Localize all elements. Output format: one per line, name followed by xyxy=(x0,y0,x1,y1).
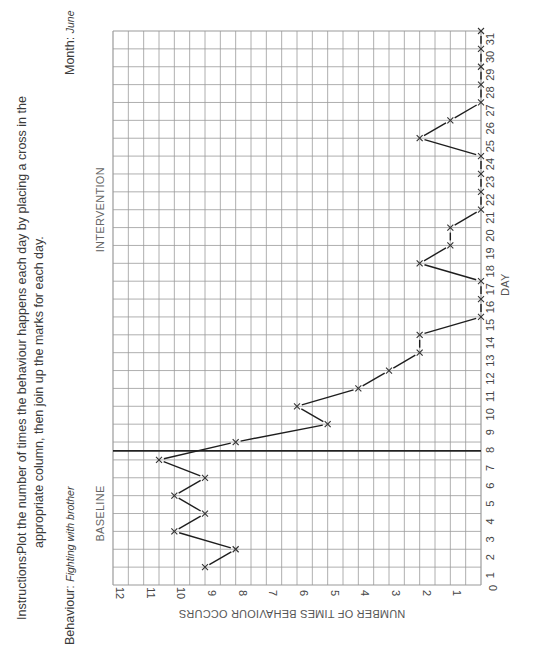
value-tick-label: 7 xyxy=(267,590,279,596)
value-axis-ticks: 123456789101112 xyxy=(114,587,463,599)
day-axis-ticks: 0123456789101112131415161718192021222324… xyxy=(484,33,499,591)
chart-labels: NUMBER OF TIMES BEHAVIOUR OCCURSDAYBASEL… xyxy=(94,167,511,620)
day-tick-label: 27 xyxy=(484,104,496,116)
day-tick-label: 10 xyxy=(484,408,496,420)
day-tick-label: 5 xyxy=(484,501,496,507)
day-tick-label: 17 xyxy=(484,283,496,295)
series-segment xyxy=(164,462,201,476)
day-tick-label: 4 xyxy=(484,518,496,524)
value-tick-label: 10 xyxy=(175,587,187,599)
data-series-line xyxy=(164,36,481,565)
day-tick-label: 26 xyxy=(484,122,496,134)
value-tick-label: 5 xyxy=(329,590,341,596)
day-tick-label: 25 xyxy=(484,140,496,152)
chart-grid xyxy=(113,31,481,585)
day-tick-label: 3 xyxy=(484,536,496,542)
baseline-label: BASELINE xyxy=(94,485,106,541)
value-tick-label: 8 xyxy=(237,590,249,596)
day-tick-label: 1 xyxy=(484,572,496,578)
value-tick-label: 9 xyxy=(206,590,218,596)
intervention-label: INTERVENTION xyxy=(94,167,106,252)
day-tick-label: 16 xyxy=(484,301,496,313)
day-tick-label: 29 xyxy=(484,69,496,81)
day-tick-label: 0 xyxy=(487,585,499,591)
x-axis-title: DAY xyxy=(499,273,511,296)
value-tick-label: 1 xyxy=(451,590,463,596)
day-tick-label: 6 xyxy=(484,483,496,489)
y-axis-title: NUMBER OF TIMES BEHAVIOUR OCCURS xyxy=(179,608,406,620)
day-tick-label: 12 xyxy=(484,372,496,384)
value-tick-label: 3 xyxy=(390,590,402,596)
day-tick-label: 31 xyxy=(484,33,496,45)
day-tick-label: 2 xyxy=(484,554,496,560)
day-tick-label: 24 xyxy=(484,158,496,170)
day-tick-label: 8 xyxy=(484,447,496,453)
day-tick-label: 30 xyxy=(484,51,496,63)
day-tick-label: 23 xyxy=(484,176,496,188)
day-tick-label: 18 xyxy=(484,265,496,277)
day-tick-label: 13 xyxy=(484,355,496,367)
day-tick-label: 9 xyxy=(484,429,496,435)
day-tick-label: 14 xyxy=(484,337,496,349)
value-tick-label: 6 xyxy=(298,590,310,596)
day-tick-label: 7 xyxy=(484,465,496,471)
day-tick-label: 21 xyxy=(484,212,496,224)
day-tick-label: 28 xyxy=(484,86,496,98)
day-tick-label: 19 xyxy=(484,247,496,259)
day-tick-label: 15 xyxy=(484,319,496,331)
value-tick-label: 11 xyxy=(145,587,157,598)
day-tick-label: 22 xyxy=(484,194,496,206)
value-tick-label: 2 xyxy=(421,590,433,596)
behaviour-chart: 0123456789101112131415161718192021222324… xyxy=(0,0,543,645)
value-tick-label: 12 xyxy=(114,587,126,599)
day-tick-label: 11 xyxy=(484,391,496,402)
day-tick-label: 20 xyxy=(484,229,496,241)
value-tick-label: 4 xyxy=(359,590,371,596)
